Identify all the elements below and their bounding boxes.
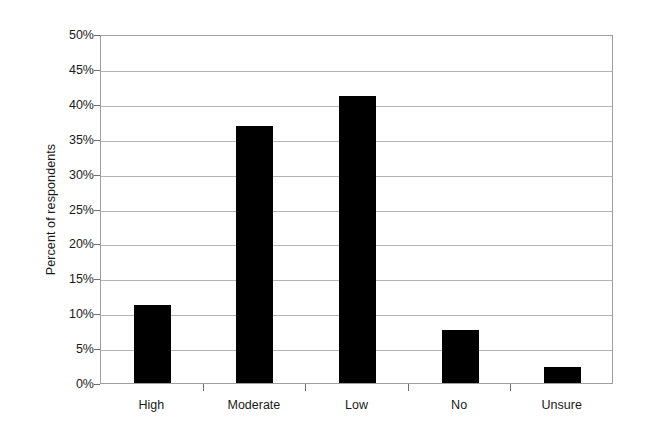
- bar-chart: Percent of respondents 0%5%10%15%20%25%3…: [0, 0, 647, 439]
- y-axis-tick-label: 25%: [48, 203, 94, 217]
- bar: [442, 330, 479, 383]
- y-axis-tick-labels: 0%5%10%15%20%25%30%35%40%45%50%: [42, 35, 94, 384]
- y-axis-tick-label: 15%: [48, 272, 94, 286]
- y-axis-tick-label: 50%: [48, 28, 94, 42]
- x-axis-category-label: No: [451, 398, 467, 412]
- x-axis-tick: [510, 384, 511, 391]
- bar: [236, 126, 273, 383]
- bar: [339, 96, 376, 383]
- y-axis-tick-label: 20%: [48, 237, 94, 251]
- x-axis-category-label: Moderate: [227, 398, 280, 412]
- x-axis-category-label: Low: [345, 398, 368, 412]
- x-axis-category-label: Unsure: [542, 398, 582, 412]
- y-axis-tick-label: 45%: [48, 63, 94, 77]
- plot-area: [100, 35, 613, 384]
- x-axis-category-label: High: [138, 398, 164, 412]
- x-axis-tick-marks: [100, 384, 613, 391]
- bar: [544, 367, 581, 383]
- y-axis-tick-label: 30%: [48, 168, 94, 182]
- x-axis-tick: [408, 384, 409, 391]
- y-axis-tick-label: 0%: [48, 377, 94, 391]
- y-axis-tick-label: 40%: [48, 98, 94, 112]
- y-axis-tick-label: 5%: [48, 342, 94, 356]
- x-axis-tick: [203, 384, 204, 391]
- y-axis-tick-label: 35%: [48, 133, 94, 147]
- x-axis-category-labels: HighModerateLowNoUnsure: [100, 398, 613, 418]
- x-axis-tick: [305, 384, 306, 391]
- y-axis-tick-label: 10%: [48, 307, 94, 321]
- gridline: [101, 71, 612, 72]
- bar: [134, 305, 171, 383]
